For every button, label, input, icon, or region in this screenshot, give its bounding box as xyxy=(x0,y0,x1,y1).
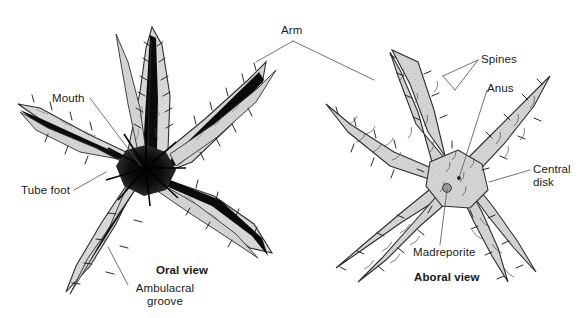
label-spines: Spines xyxy=(481,53,517,66)
label-tube-foot: Tube foot xyxy=(21,184,70,197)
label-madreporite: Madreporite xyxy=(413,246,475,259)
diagram-artwork xyxy=(0,0,588,318)
label-ambulacral-line-2: groove xyxy=(126,295,204,308)
label-aboral-view: Aboral view xyxy=(414,271,480,284)
label-ambulacral-groove: Ambulacral groove xyxy=(126,282,204,307)
label-central-disk: Central disk xyxy=(533,163,571,188)
label-oral-view: Oral view xyxy=(156,264,208,277)
label-mouth: Mouth xyxy=(52,92,84,105)
label-ambulacral-line-1: Ambulacral xyxy=(126,282,204,295)
label-central-line-1: Central xyxy=(533,163,571,176)
label-anus: Anus xyxy=(487,82,514,95)
label-arm: Arm xyxy=(281,24,302,37)
label-central-line-2: disk xyxy=(533,176,571,189)
starfish-anatomy-figure: Arm Mouth Tube foot Ambulacral groove Or… xyxy=(0,0,588,318)
